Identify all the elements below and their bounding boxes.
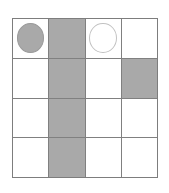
grid-cell-r2c3[interactable] <box>86 59 121 98</box>
grid-cell-r4c3[interactable] <box>86 138 121 177</box>
grid-cell-r1c3[interactable] <box>86 19 121 58</box>
grid-cell-r3c3[interactable] <box>86 99 121 138</box>
grid-cell-r4c1[interactable] <box>13 138 48 177</box>
grid-cell-r4c4[interactable] <box>122 138 157 177</box>
figure-root <box>0 0 169 193</box>
grid-cell-r3c2[interactable] <box>49 99 84 138</box>
grid-cell-r1c1[interactable] <box>13 19 48 58</box>
grid-cell-r3c1[interactable] <box>13 99 48 138</box>
grid-board <box>12 18 158 178</box>
grid-cell-r1c4[interactable] <box>122 19 157 58</box>
grid-cell-r4c2[interactable] <box>49 138 84 177</box>
grid-cell-r2c2[interactable] <box>49 59 84 98</box>
empty-circle-icon[interactable] <box>89 23 116 53</box>
grid-cell-r3c4[interactable] <box>122 99 157 138</box>
grid-cell-r1c2[interactable] <box>49 19 84 58</box>
grid-cell-r2c4[interactable] <box>122 59 157 98</box>
grid-cell-r2c1[interactable] <box>13 59 48 98</box>
filled-circle-icon[interactable] <box>17 23 44 53</box>
